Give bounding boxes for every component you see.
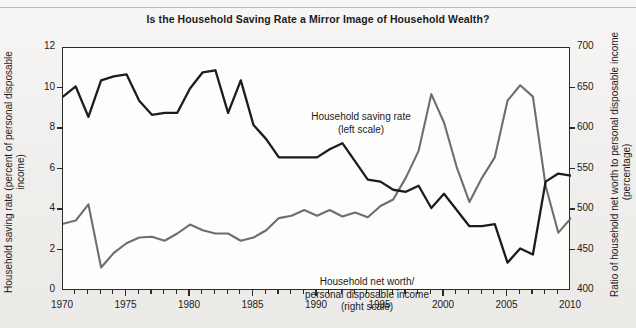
saving-rate-line [63,70,571,262]
y-axis-left-tick-label: 0 [33,283,55,294]
y-axis-left-title: Household saving rate (percent of person… [3,47,27,297]
y-axis-left-tick-label: 4 [33,202,55,213]
y-axis-right-tick-label: 700 [577,40,607,51]
y-axis-right-tick-label: 550 [577,162,607,173]
y-axis-right-title: Ratio of household net worth to personal… [609,47,633,297]
chart-figure: Is the Household Saving Rate a Mirror Im… [0,0,636,328]
x-axis-tick-label: 1980 [169,299,209,310]
x-axis-tick-label: 2005 [487,299,527,310]
y-axis-left-tick-label: 8 [33,121,55,132]
top-divider [0,7,636,8]
y-axis-left-tick-label: 2 [33,243,55,254]
plot-area: Household saving rate (left scale) House… [62,47,570,290]
annotation-net-worth: Household net worth/ personal disposable… [281,276,453,314]
y-axis-left-tick-label: 10 [33,81,55,92]
y-axis-right-tick-label: 600 [577,121,607,132]
y-axis-left-tick-label: 12 [33,40,55,51]
y-axis-left-title-line1: Household saving rate (percent of person… [3,51,14,293]
y-axis-right-title-line1: Ratio of household net worth to personal… [609,32,620,297]
annotation-net-worth-line2: personal disposable income [305,289,429,300]
y-axis-left-title-line2: income) [15,47,27,297]
x-axis-tick-label: 1970 [42,299,82,310]
x-axis-tick-label: 1985 [233,299,273,310]
x-axis-tick-label: 1975 [106,299,146,310]
x-axis-tick-label: 2010 [550,299,590,310]
y-axis-right-tick-label: 450 [577,243,607,254]
annotation-net-worth-line1: Household net worth/ [320,276,415,287]
y-axis-right-title-line2: (percentage) [621,47,633,297]
annotation-net-worth-line3: (right scale) [341,301,393,312]
y-axis-right-tick-label: 650 [577,81,607,92]
y-axis-right-tick-label: 400 [577,283,607,294]
chart-title: Is the Household Saving Rate a Mirror Im… [0,13,636,25]
annotation-saving-rate-line1: Household saving rate [311,111,411,122]
y-axis-right-tick-label: 500 [577,202,607,213]
annotation-saving-rate-line2: (left scale) [338,124,384,135]
y-axis-left-tick-label: 6 [33,162,55,173]
series-paths [63,48,571,291]
annotation-saving-rate: Household saving rate (left scale) [286,111,436,136]
